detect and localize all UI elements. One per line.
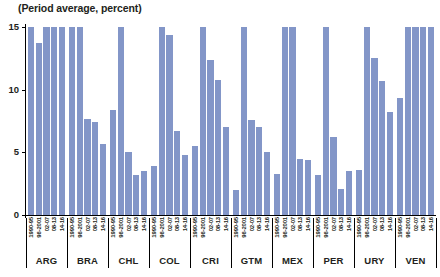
bar [118, 27, 124, 215]
x-axis-period-label: 08-13 [379, 217, 385, 253]
x-axis-period-label: 96-2001 [36, 217, 42, 253]
x-axis-period-label: 02-07 [84, 217, 90, 253]
bar-group-per [313, 27, 354, 215]
bar-group-ury [354, 27, 395, 215]
x-axis-period-label: 14-16 [305, 217, 311, 253]
x-axis-period-label: 14-16 [264, 217, 270, 253]
bar [223, 127, 229, 215]
period-labels-col: 1990-9596-200102-0708-1314-16 [149, 217, 190, 253]
bar [371, 58, 377, 215]
bar-group-chl [108, 27, 149, 215]
bar [241, 27, 247, 215]
bar [125, 152, 131, 215]
bar [215, 80, 221, 215]
y-axis-tick-label: 0 [14, 209, 19, 220]
x-axis-period-label: 96-2001 [323, 217, 329, 253]
group-separator [26, 218, 27, 268]
bar [323, 27, 329, 215]
x-axis-country-label-chl: CHL [108, 255, 149, 266]
x-axis-period-label: 02-07 [248, 217, 254, 253]
bar [338, 189, 344, 215]
x-axis-period-label: 08-13 [256, 217, 262, 253]
x-axis-period-label: 1990-95 [69, 217, 75, 253]
x-axis-period-label: 96-2001 [77, 217, 83, 253]
period-labels-bra: 1990-9596-200102-0708-1314-16 [67, 217, 108, 253]
x-axis-period-label: 02-07 [125, 217, 131, 253]
x-axis-period-label: 1990-95 [28, 217, 34, 253]
x-axis-country-label-per: PER [313, 255, 354, 266]
bar [346, 171, 352, 215]
bar [356, 170, 362, 215]
bar [200, 27, 206, 215]
bars [26, 27, 67, 215]
x-axis-period-label: 08-13 [133, 217, 139, 253]
y-axis-tick-label: 5 [14, 146, 19, 157]
bar [315, 175, 321, 215]
x-axis-period-label: 08-13 [420, 217, 426, 253]
x-axis-period-label: 96-2001 [364, 217, 370, 253]
bar [84, 119, 90, 216]
bars [67, 27, 108, 215]
bars [354, 27, 395, 215]
bar [412, 27, 418, 215]
period-labels-arg: 1990-9596-200102-0708-1314-16 [26, 217, 67, 253]
bar [92, 122, 98, 215]
x-axis-period-label: 1990-95 [151, 217, 157, 253]
period-labels-chl: 1990-9596-200102-0708-1314-16 [108, 217, 149, 253]
x-axis-period-label: 08-13 [92, 217, 98, 253]
x-axis-period-label: 02-07 [207, 217, 213, 253]
bar-group-bra [67, 27, 108, 215]
y-axis-tick-label: 10 [8, 84, 19, 95]
bar [274, 174, 280, 215]
bar [59, 27, 65, 215]
x-axis-period-label: 02-07 [289, 217, 295, 253]
bar [264, 152, 270, 215]
x-axis-period-label: 1990-95 [397, 217, 403, 253]
x-axis-period-label: 08-13 [215, 217, 221, 253]
x-axis-period-label: 02-07 [330, 217, 336, 253]
x-axis-period-label: 14-16 [223, 217, 229, 253]
x-axis-period-label: 02-07 [371, 217, 377, 253]
x-axis-country-label-gtm: GTM [231, 255, 272, 266]
bar [420, 27, 426, 215]
bar [110, 110, 116, 215]
x-axis-period-label: 1990-95 [110, 217, 116, 253]
bar-group-gtm [231, 27, 272, 215]
bar [256, 127, 262, 215]
bar-group-ven [395, 27, 436, 215]
bar [405, 27, 411, 215]
bar [51, 27, 57, 215]
x-axis-period-label: 96-2001 [405, 217, 411, 253]
bar [289, 27, 295, 215]
x-axis-period-label: 1990-95 [192, 217, 198, 253]
bars [272, 27, 313, 215]
period-labels-ury: 1990-9596-200102-0708-1314-16 [354, 217, 395, 253]
bar [207, 60, 213, 215]
x-axis-period-label: 14-16 [100, 217, 106, 253]
period-labels-cri: 1990-9596-200102-0708-1314-16 [190, 217, 231, 253]
period-labels-per: 1990-9596-200102-0708-1314-16 [313, 217, 354, 253]
bar [100, 144, 106, 215]
x-axis-period-label: 1990-95 [356, 217, 362, 253]
bar-group-col [149, 27, 190, 215]
x-axis-period-label: 14-16 [59, 217, 65, 253]
bar [192, 146, 198, 215]
y-axis-tick-mark [22, 215, 26, 216]
x-axis-country-label-arg: ARG [26, 255, 67, 266]
x-axis-period-label: 02-07 [412, 217, 418, 253]
x-axis-period-label: 1990-95 [233, 217, 239, 253]
x-axis-period-label: 08-13 [174, 217, 180, 253]
bar [77, 27, 83, 215]
bar [233, 190, 239, 215]
x-axis-country-label-cri: CRI [190, 255, 231, 266]
bar [36, 43, 42, 215]
bar [166, 35, 172, 215]
bar [141, 171, 147, 215]
bars [313, 27, 354, 215]
bar [305, 160, 311, 215]
x-axis-period-label: 08-13 [297, 217, 303, 253]
bar [182, 155, 188, 215]
bar [133, 175, 139, 215]
bar-group-mex [272, 27, 313, 215]
bar [151, 166, 157, 215]
